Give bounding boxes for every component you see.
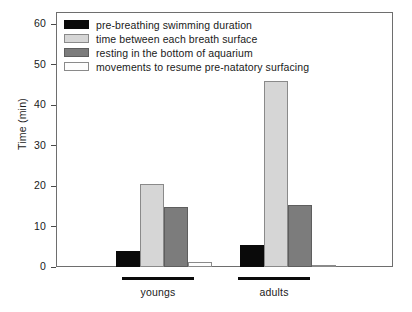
y-tick-label: 10 bbox=[0, 220, 46, 232]
y-tick-label: 40 bbox=[0, 98, 46, 110]
y-tick-label: 20 bbox=[0, 179, 46, 191]
group-label: youngs bbox=[102, 286, 214, 298]
legend-swatch-icon bbox=[64, 62, 89, 71]
y-tick-label: 60 bbox=[0, 17, 46, 29]
bar bbox=[188, 262, 212, 267]
group-rule bbox=[238, 277, 310, 280]
bar bbox=[116, 251, 140, 267]
legend-swatch-icon bbox=[64, 34, 89, 43]
legend-item: time between each breath surface bbox=[64, 32, 349, 46]
y-tick-label: 50 bbox=[0, 58, 46, 70]
legend-item: resting in the bottom of aquarium bbox=[64, 46, 349, 60]
legend-item-label: pre-breathing swimming duration bbox=[96, 19, 252, 31]
bar bbox=[140, 184, 164, 267]
legend-item-label: time between each breath surface bbox=[96, 33, 257, 45]
y-tick-label: 0 bbox=[0, 260, 46, 272]
legend-item: pre-breathing swimming duration bbox=[64, 18, 349, 32]
legend-swatch-icon bbox=[64, 20, 89, 29]
legend-swatch-icon bbox=[64, 48, 89, 57]
y-tick-label: 30 bbox=[0, 139, 46, 151]
legend-item-label: movements to resume pre-natatory surfaci… bbox=[96, 61, 309, 73]
bar bbox=[288, 205, 312, 267]
legend-item: movements to resume pre-natatory surfaci… bbox=[64, 60, 349, 74]
legend-item-label: resting in the bottom of aquarium bbox=[96, 47, 253, 59]
bar-chart-figure: Time (min) 0102030405060 pre-breathing s… bbox=[0, 0, 412, 312]
bar bbox=[312, 265, 336, 267]
group-rule bbox=[122, 277, 194, 280]
bar bbox=[264, 81, 288, 267]
y-axis-title: Time (min) bbox=[16, 64, 28, 184]
group-label: adults bbox=[218, 286, 330, 298]
chart-legend: pre-breathing swimming durationtime betw… bbox=[64, 18, 349, 74]
bar bbox=[240, 245, 264, 267]
bar bbox=[164, 207, 188, 267]
